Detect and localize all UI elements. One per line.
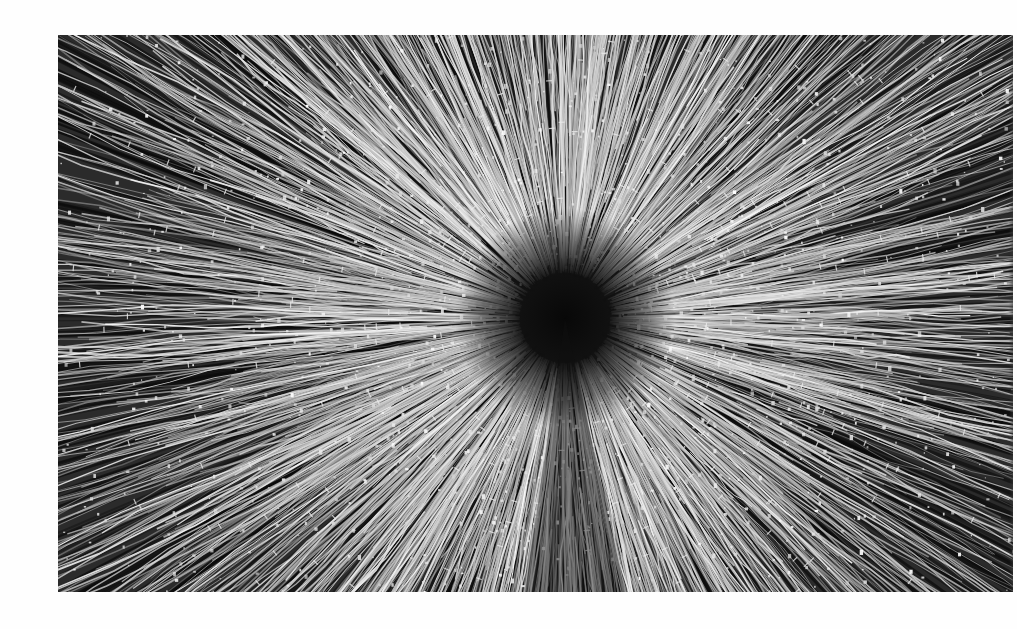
radial-light-streaks-image	[58, 35, 1013, 592]
page	[0, 0, 1017, 629]
photograph	[58, 35, 1013, 592]
page-edge-shadow	[1009, 35, 1013, 592]
